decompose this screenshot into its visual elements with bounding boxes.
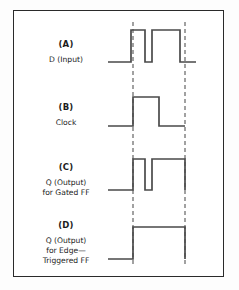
row-desc-c-line-2: for Gated FF (26, 188, 106, 198)
row-label-d: (D) Q (Output) for Edge— Triggered FF (26, 219, 106, 267)
row-tag-a: (A) (26, 38, 106, 50)
waveform-q-gated-path (108, 159, 185, 190)
row-desc-c-line-1: Q (Output) (26, 178, 106, 188)
row-label-c: (C) Q (Output) for Gated FF (26, 161, 106, 198)
row-desc-a-line-1: D (Input) (26, 55, 106, 65)
row-label-a: (A) D (Input) (26, 38, 106, 65)
waveform-q-edge-path (108, 227, 185, 259)
row-desc-b: Clock (26, 118, 106, 128)
row-desc-d-line-1: Q (Output) (26, 236, 106, 246)
row-desc-d-line-2: for Edge— (26, 246, 106, 256)
row-desc-c: Q (Output) for Gated FF (26, 178, 106, 198)
row-desc-b-line-1: Clock (26, 118, 106, 128)
timing-diagram-figure: (A) D (Input) (B) Clock (C) Q (Output) f… (0, 0, 239, 290)
row-tag-b: (B) (26, 101, 106, 113)
waveform-d-input-path (108, 30, 196, 62)
row-desc-d: Q (Output) for Edge— Triggered FF (26, 236, 106, 267)
row-tag-c: (C) (26, 161, 106, 173)
row-label-b: (B) Clock (26, 101, 106, 128)
waveform-paths-group (108, 30, 196, 259)
row-desc-d-line-3: Triggered FF (26, 256, 106, 266)
marker-lines-group (133, 22, 185, 266)
row-tag-d: (D) (26, 219, 106, 231)
row-desc-a: D (Input) (26, 55, 106, 65)
waveform-clock-path (108, 97, 185, 126)
